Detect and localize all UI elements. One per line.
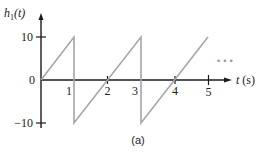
y-tick-label-0: 0 [29, 73, 35, 87]
x-axis-arrow-icon [224, 78, 232, 83]
x-axis-label: t (s) [236, 73, 255, 87]
y-tick-label-neg10: −10 [14, 116, 33, 130]
continuation-dots-icon: ••• [216, 56, 235, 66]
figure-caption: (a) [131, 134, 144, 146]
x-tick-label-1: 1 [66, 84, 72, 98]
y-axis-arrow-icon [39, 13, 44, 20]
x-tick-label-4: 4 [172, 84, 178, 98]
x-tick-label-5: 5 [206, 85, 212, 99]
x-tick-label-2: 2 [105, 84, 111, 98]
y-axis-label: h1(t) [4, 6, 25, 22]
y-tick-label-10: 10 [21, 30, 33, 44]
chart-canvas: h1(t) 10 0 −10 1 2 3 4 5 t (s) ••• (a) [0, 0, 277, 156]
x-tick-label-3: 3 [132, 84, 138, 98]
